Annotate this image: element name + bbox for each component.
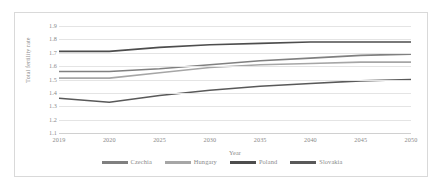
chart-frame: 1.91.81.71.61.51.41.31.21.1 Total fertil… bbox=[14, 12, 428, 177]
x-axis-tick-labels: 20192020202520302035204020452050 bbox=[59, 137, 411, 149]
gridline bbox=[59, 53, 411, 54]
y-tick-label: 1.5 bbox=[49, 77, 57, 83]
gridline bbox=[59, 26, 411, 27]
x-tick-label: 2050 bbox=[405, 137, 418, 143]
y-tick-label: 1.9 bbox=[49, 23, 57, 29]
y-axis-title: Total fertility rate bbox=[25, 21, 31, 99]
x-tick-label: 2045 bbox=[354, 137, 367, 143]
plot-area bbox=[59, 26, 411, 133]
gridline bbox=[59, 66, 411, 67]
legend-swatch-poland bbox=[230, 161, 256, 164]
y-axis-tick-labels: 1.91.81.71.61.51.41.31.21.1 bbox=[33, 26, 57, 133]
legend-label: Czechia bbox=[131, 159, 152, 165]
series-line-slovakia bbox=[59, 80, 411, 103]
legend-swatch-czechia bbox=[102, 161, 128, 164]
x-tick-label: 2020 bbox=[103, 137, 116, 143]
gridline bbox=[59, 93, 411, 94]
legend-item-hungary[interactable]: Hungary bbox=[165, 159, 217, 165]
legend-swatch-hungary bbox=[165, 161, 191, 164]
x-tick-label: 2030 bbox=[203, 137, 216, 143]
legend-label: Slovakia bbox=[319, 159, 342, 165]
legend-item-czechia[interactable]: Czechia bbox=[102, 159, 152, 165]
x-tick-label: 2035 bbox=[254, 137, 267, 143]
x-tick-label: 2040 bbox=[304, 137, 317, 143]
legend-item-slovakia[interactable]: Slovakia bbox=[290, 159, 342, 165]
gridline bbox=[59, 120, 411, 121]
y-tick-label: 1.3 bbox=[49, 103, 57, 109]
gridline bbox=[59, 106, 411, 107]
x-tick-label: 2019 bbox=[53, 137, 66, 143]
chart-legend: CzechiaHungaryPolandSlovakia bbox=[15, 159, 429, 165]
y-tick-label: 1.8 bbox=[49, 36, 57, 42]
y-tick-label: 1.2 bbox=[49, 117, 57, 123]
x-axis-line bbox=[59, 133, 411, 134]
x-axis-title: Year bbox=[59, 149, 411, 156]
gridline bbox=[59, 80, 411, 81]
y-tick-label: 1.4 bbox=[49, 90, 57, 96]
y-tick-label: 1.6 bbox=[49, 63, 57, 69]
legend-swatch-slovakia bbox=[290, 161, 316, 164]
legend-item-poland[interactable]: Poland bbox=[230, 159, 277, 165]
series-line-poland bbox=[59, 42, 411, 51]
x-tick-label: 2025 bbox=[153, 137, 166, 143]
legend-label: Poland bbox=[259, 159, 277, 165]
gridline bbox=[59, 39, 411, 40]
series-line-hungary bbox=[59, 62, 411, 78]
y-tick-label: 1.7 bbox=[49, 50, 57, 56]
legend-label: Hungary bbox=[194, 159, 217, 165]
